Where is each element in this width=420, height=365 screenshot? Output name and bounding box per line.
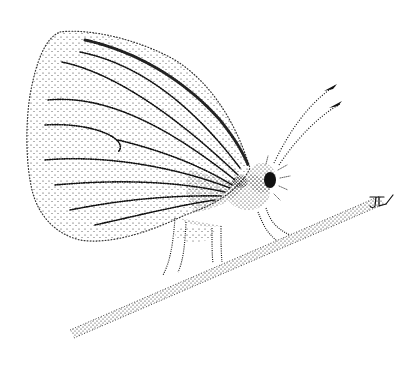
antennae xyxy=(274,84,342,165)
wing xyxy=(27,31,250,241)
eye xyxy=(264,172,276,188)
antenna-club xyxy=(324,84,337,91)
butterfly-drawing xyxy=(0,0,420,365)
